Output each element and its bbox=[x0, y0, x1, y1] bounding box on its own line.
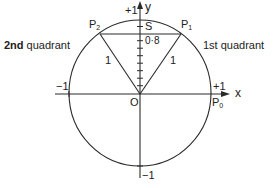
op1-length-label: 1 bbox=[170, 55, 176, 66]
first-quadrant-label: 1st quadrant bbox=[203, 40, 264, 51]
point-p2-label: P2 bbox=[89, 19, 100, 31]
p0-sub: 0 bbox=[219, 102, 223, 109]
op2-length-label: 1 bbox=[105, 55, 111, 66]
y-pos-one-label: +1 bbox=[125, 5, 138, 16]
p2-sub: 2 bbox=[96, 24, 100, 31]
p1-sub: 1 bbox=[188, 24, 192, 31]
point-p1-label: P1 bbox=[181, 19, 192, 31]
second-quadrant-text: quadrant bbox=[24, 39, 70, 51]
point-s-label: S bbox=[145, 21, 152, 32]
point-p0-label: P0 bbox=[212, 97, 223, 109]
y-axis-label: y bbox=[145, 1, 151, 13]
second-quadrant-label: 2nd quadrant bbox=[4, 40, 70, 51]
x-axis-label: x bbox=[235, 87, 241, 99]
origin-label: O bbox=[130, 97, 139, 108]
os-value-label: 0·8 bbox=[145, 36, 159, 46]
x-neg-one-label: −1 bbox=[56, 81, 69, 92]
y-neg-one-label: −1 bbox=[142, 170, 155, 181]
second-quadrant-num: 2nd bbox=[4, 39, 24, 51]
x-pos-one-label: +1 bbox=[213, 81, 226, 92]
y-axis-arrow-icon bbox=[137, 1, 143, 9]
